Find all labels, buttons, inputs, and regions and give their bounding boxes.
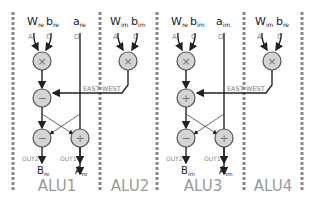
out2-label: OUT2	[22, 155, 39, 162]
input-b-re: bre	[276, 15, 289, 28]
output-b-re: Bre	[37, 165, 50, 177]
add-symbol: +	[75, 132, 84, 145]
input-a-im: aim	[216, 15, 230, 28]
out1-label: OUT1	[60, 155, 77, 162]
east-label: EAST	[227, 85, 244, 93]
multiply-symbol: ×	[123, 55, 132, 68]
alu-diagram: Wre bre are A C D × − − + OUT2 OUT1 Bre …	[0, 0, 313, 204]
east-label: EAST	[83, 85, 100, 93]
west-label: WEST	[246, 85, 265, 93]
input-w-im: Wim	[255, 15, 274, 28]
input-w-re: Wre	[171, 15, 188, 28]
out2-label: OUT2	[166, 155, 183, 162]
alu4-label: ALU4	[254, 177, 292, 195]
port-d: D	[218, 33, 223, 41]
add-symbol: +	[181, 92, 190, 105]
alu2-label: ALU2	[111, 177, 149, 195]
alu3-label: ALU3	[184, 177, 222, 195]
input-w-re: Wre	[27, 15, 44, 28]
alu3: Wre bim aim A C D × + − + OUT2 OUT1 Bim …	[166, 15, 233, 195]
add-symbol: +	[219, 132, 228, 145]
subtract-symbol: −	[181, 132, 190, 145]
alu1-label: ALU1	[38, 177, 76, 195]
multiply-symbol: ×	[267, 55, 276, 68]
port-d: D	[74, 33, 79, 41]
port-a: A	[172, 33, 177, 41]
port-a: A	[28, 33, 33, 41]
subtract-symbol: −	[37, 132, 46, 145]
alu1: Wre bre are A C D × − − + OUT2 OUT1 Bre …	[22, 15, 89, 195]
input-b-im: bim	[190, 15, 205, 28]
subtract-symbol: −	[37, 92, 46, 105]
output-b-im: Bim	[181, 165, 195, 177]
input-b-im: bim	[131, 15, 146, 28]
input-b-re: bre	[46, 15, 59, 28]
multiply-symbol: ×	[37, 55, 46, 68]
output-a-re: Are	[75, 165, 88, 177]
output-a-im: Aim	[219, 165, 233, 177]
out1-label: OUT1	[204, 155, 221, 162]
west-label: WEST	[102, 85, 121, 93]
multiply-symbol: ×	[181, 55, 190, 68]
input-a-re: are	[73, 15, 86, 28]
input-w-im: Wim	[110, 15, 129, 28]
